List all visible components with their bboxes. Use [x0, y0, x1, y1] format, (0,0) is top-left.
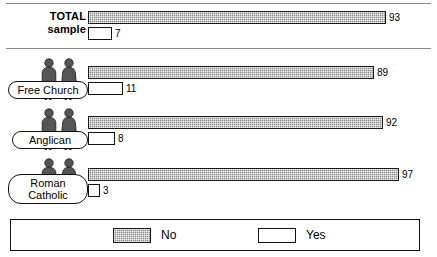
divider-top — [6, 3, 431, 4]
horizontal-bar-chart: TOTAL sample 93 7 — [0, 0, 437, 257]
row-label-free-church-line1: Free Church — [17, 84, 78, 96]
bar-yes-total-sample — [88, 27, 112, 40]
bar-value-no-anglican: 92 — [386, 116, 397, 129]
legend-label-no: No — [161, 228, 176, 243]
bar-value-no-roman-catholic: 97 — [402, 168, 413, 181]
bar-no-total-sample — [88, 11, 386, 24]
bar-value-yes-total-sample: 7 — [115, 27, 121, 40]
legend-label-yes: Yes — [306, 228, 326, 243]
bar-no-anglican — [88, 116, 383, 129]
total-sample-label-line2: sample — [8, 23, 86, 36]
bar-no-roman-catholic — [88, 168, 399, 181]
chart-row-roman-catholic: Roman Catholic 97 3 — [0, 156, 437, 206]
row-label-roman-catholic-line2: Catholic — [13, 189, 83, 201]
legend-swatch-yes-icon — [258, 228, 296, 243]
total-sample-label-line1: TOTAL — [8, 10, 86, 23]
total-sample-label: TOTAL sample — [8, 10, 86, 35]
bar-yes-anglican — [88, 132, 115, 145]
chart-row-total-sample: TOTAL sample 93 7 — [0, 8, 437, 48]
row-label-roman-catholic-line1: Roman — [30, 177, 65, 189]
bar-value-yes-free-church: 11 — [126, 82, 136, 95]
bar-value-no-total-sample: 93 — [389, 11, 400, 24]
row-label-anglican-line1: Anglican — [29, 134, 71, 146]
chart-legend: No Yes — [10, 219, 420, 251]
bar-value-no-free-church: 89 — [377, 66, 388, 79]
bar-value-yes-anglican: 8 — [118, 132, 124, 145]
chart-row-anglican: Anglican 92 8 — [0, 106, 437, 154]
bar-value-yes-roman-catholic: 3 — [103, 184, 109, 197]
row-label-free-church: Free Church — [8, 81, 88, 99]
chart-row-free-church: Free Church 89 11 — [0, 56, 437, 104]
bar-no-free-church — [88, 66, 374, 79]
bar-yes-roman-catholic — [88, 184, 100, 197]
legend-swatch-no-icon — [113, 228, 151, 243]
divider-below-total — [6, 48, 431, 49]
row-label-roman-catholic: Roman Catholic — [8, 174, 88, 204]
bar-yes-free-church — [88, 82, 123, 95]
row-label-anglican: Anglican — [12, 131, 88, 149]
